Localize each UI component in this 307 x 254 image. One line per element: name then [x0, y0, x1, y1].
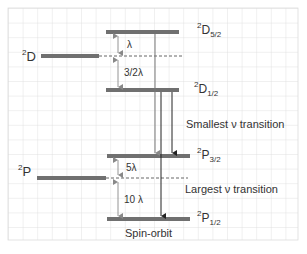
annotation-largest-transition: Largest ν transition: [185, 183, 278, 195]
split-label-p-lower: 10 λ: [124, 194, 143, 205]
split-label-p-upper: 5λ: [126, 162, 137, 173]
split-label-d-upper: λ: [127, 39, 132, 50]
diagram-caption: Spin-orbit: [125, 227, 172, 239]
split-label-d-lower: 3/2λ: [124, 67, 143, 78]
annotation-smallest-transition: Smallest ν transition: [186, 118, 284, 130]
energy-level-diagram: 2D 2P 2D5/2 2D1/2 2P3/2 2P1/2 λ 3/2λ 5λ …: [0, 0, 307, 254]
